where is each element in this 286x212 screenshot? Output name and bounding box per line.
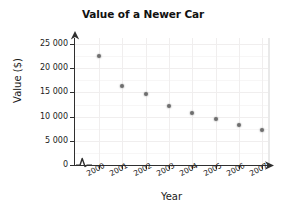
y-axis-tick: [70, 92, 74, 93]
y-axis-tick: [70, 141, 74, 142]
y-axis-tick-label: 5 000: [16, 136, 68, 145]
y-axis-tick-label: 20 000: [16, 63, 68, 72]
data-point: [144, 92, 148, 96]
x-axis-title: Year: [75, 191, 268, 202]
y-axis-tick: [70, 165, 74, 166]
y-axis-tick: [70, 44, 74, 45]
y-axis-tick: [70, 68, 74, 69]
data-point: [214, 117, 218, 121]
gridline-vertical: [192, 38, 193, 165]
chart-figure: Value of a Newer Car Value ($) Year 05 0…: [0, 0, 286, 212]
gridline-vertical: [262, 38, 263, 165]
y-axis-tick-label: 0: [16, 160, 68, 169]
data-point: [167, 104, 171, 108]
gridline-vertical: [122, 38, 123, 165]
y-axis-tick: [70, 117, 74, 118]
y-axis-tick-label: 25 000: [16, 39, 68, 48]
chart-title: Value of a Newer Car: [0, 8, 286, 20]
grid-layer: [75, 38, 268, 165]
gridline-vertical: [216, 38, 217, 165]
data-point: [237, 123, 241, 127]
gridline-vertical: [169, 38, 170, 165]
y-axis-tick-label: 15 000: [16, 87, 68, 96]
gridline-vertical: [239, 38, 240, 165]
y-axis-tick-label: 10 000: [16, 112, 68, 121]
gridline-vertical: [146, 38, 147, 165]
